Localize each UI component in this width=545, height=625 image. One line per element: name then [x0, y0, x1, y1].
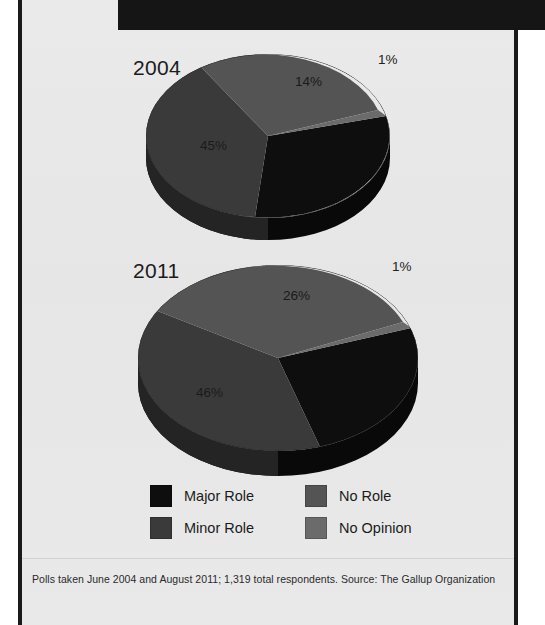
legend-label-minor-role: Minor Role — [184, 520, 254, 536]
legend-swatch-minor-role — [150, 517, 172, 539]
infographic-page: United States? 2004 — [0, 0, 545, 625]
legend-item-no-role: No Role — [305, 485, 391, 507]
source-note: Polls taken June 2004 and August 2011; 1… — [32, 573, 502, 585]
legend-item-minor-role: Minor Role — [150, 517, 254, 539]
pie-chart-2011 — [133, 250, 423, 475]
slice-label-2011-minor-role: 46% — [196, 385, 223, 400]
page-title: United States? — [136, 0, 258, 4]
legend-label-no-role: No Role — [339, 488, 391, 504]
legend-item-major-role: Major Role — [150, 485, 254, 507]
slice-label-2004-no-opinion: 1% — [378, 52, 398, 67]
slice-label-2004-minor-role: 45% — [200, 138, 227, 153]
chart-legend: Major Role Minor Role No Role No Opinion — [130, 483, 430, 545]
legend-swatch-no-role — [305, 485, 327, 507]
slice-label-2011-no-role: 26% — [283, 288, 310, 303]
footer-divider — [22, 558, 514, 559]
pie-2011-svg — [133, 250, 423, 475]
pie-chart-2004 — [138, 38, 398, 238]
pie-2004-svg — [138, 38, 398, 238]
slice-label-2004-no-role: 14% — [295, 74, 322, 89]
legend-swatch-major-role — [150, 485, 172, 507]
title-banner: United States? — [118, 0, 545, 30]
legend-label-major-role: Major Role — [184, 488, 254, 504]
legend-swatch-no-opinion — [305, 517, 327, 539]
slice-label-2011-no-opinion: 1% — [392, 259, 412, 274]
legend-item-no-opinion: No Opinion — [305, 517, 412, 539]
legend-label-no-opinion: No Opinion — [339, 520, 412, 536]
